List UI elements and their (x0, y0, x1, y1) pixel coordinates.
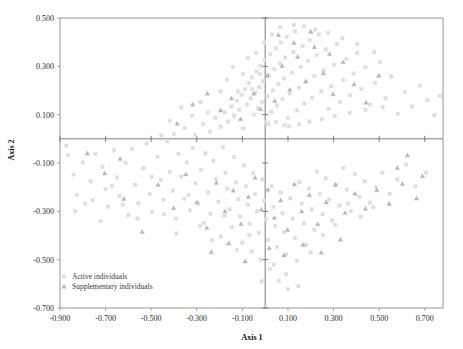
data-point (194, 182, 197, 185)
data-point (330, 84, 333, 87)
data-point (372, 206, 375, 209)
data-point (308, 120, 311, 123)
data-point (368, 201, 371, 204)
data-point (162, 213, 165, 216)
data-point (307, 187, 310, 190)
data-point (252, 113, 255, 116)
data-point (241, 241, 244, 244)
data-point (289, 197, 292, 200)
data-point (183, 197, 186, 200)
data-point (334, 223, 337, 226)
data-point (327, 198, 330, 201)
data-point (332, 63, 335, 66)
data-point (124, 161, 127, 164)
data-point (277, 279, 280, 282)
y-tick-label: -0.700 (33, 304, 54, 313)
data-point (320, 117, 323, 120)
data-point (281, 212, 284, 215)
data-point (297, 123, 300, 126)
data-point (381, 105, 384, 108)
data-point (217, 200, 220, 203)
data-point (230, 226, 233, 229)
data-point (209, 212, 212, 215)
data-point (303, 102, 306, 105)
data-point (274, 120, 277, 123)
data-point (283, 124, 286, 127)
data-point (327, 107, 330, 110)
x-axis-tick-labels: -0.900-0.700-0.500-0.300-0.1000.1000.300… (50, 314, 434, 323)
data-point (418, 84, 421, 87)
data-point (273, 68, 276, 71)
y-tick-label: -0.500 (33, 256, 54, 265)
data-point (295, 109, 298, 112)
data-point (300, 202, 303, 205)
data-point (237, 198, 240, 201)
data-point (99, 219, 102, 222)
data-point (313, 74, 316, 77)
data-point (101, 165, 104, 168)
data-point (396, 178, 399, 181)
data-point (198, 224, 201, 227)
data-point (356, 42, 359, 45)
data-point (250, 76, 253, 79)
data-point (250, 87, 253, 90)
plot-canvas: -0.900-0.700-0.500-0.300-0.1000.1000.300… (0, 0, 463, 349)
data-point (175, 232, 178, 235)
data-point (219, 125, 222, 128)
data-point (193, 133, 196, 136)
data-point (324, 48, 327, 51)
data-point (349, 210, 352, 213)
data-point (191, 114, 194, 117)
data-point (426, 98, 429, 101)
data-point (321, 233, 324, 236)
data-point (204, 152, 207, 155)
data-point (373, 81, 376, 84)
data-point (248, 222, 251, 225)
data-point (180, 106, 183, 109)
data-point (282, 77, 285, 80)
data-point (341, 37, 344, 40)
data-point (160, 134, 163, 137)
data-point (247, 82, 250, 85)
x-tick-label: -0.900 (50, 314, 71, 323)
data-point (438, 94, 441, 97)
data-point (257, 231, 260, 234)
data-point (301, 44, 304, 47)
data-point (235, 99, 238, 102)
data-point (309, 251, 312, 254)
data-point (211, 239, 214, 242)
data-point (242, 127, 245, 130)
data-point (74, 210, 77, 213)
x-tick-label: 0.700 (416, 314, 434, 323)
data-point (65, 144, 68, 147)
data-point (270, 185, 273, 188)
data-point (279, 41, 282, 44)
x-tick-label: -0.300 (186, 314, 207, 323)
data-point (263, 58, 266, 61)
data-point (202, 221, 205, 224)
data-point (403, 90, 406, 93)
data-point (219, 235, 222, 238)
data-point (230, 105, 233, 108)
x-tick-label: 0.500 (370, 314, 388, 323)
data-point (110, 185, 113, 188)
data-point (378, 60, 381, 63)
data-point (127, 214, 130, 217)
data-point (72, 173, 75, 176)
data-point (168, 170, 171, 173)
data-point (121, 203, 124, 206)
data-point (188, 209, 191, 212)
data-point (118, 194, 121, 197)
data-point (291, 217, 294, 220)
data-point (238, 215, 241, 218)
data-point (252, 171, 255, 174)
data-point (345, 188, 348, 191)
data-point (214, 116, 217, 119)
data-point (356, 51, 359, 54)
data-point (272, 205, 275, 208)
data-point (353, 172, 356, 175)
legend-label: Active individuals (72, 272, 127, 281)
data-point (363, 180, 366, 183)
data-point (246, 203, 249, 206)
data-point (226, 187, 229, 190)
